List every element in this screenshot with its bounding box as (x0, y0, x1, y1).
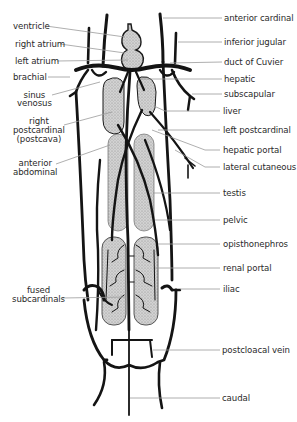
label-hepatic: hepatic (224, 75, 255, 84)
renal-portal-right-line (96, 160, 100, 330)
label-testis: testis (223, 189, 246, 198)
iliac-right (162, 286, 172, 290)
vessels (70, 14, 195, 415)
subscapular-right-end (188, 96, 190, 110)
label-lateral-cutaneous: lateral cutaneous (223, 163, 296, 172)
kidney-right (102, 237, 126, 325)
subscapular-right (172, 70, 194, 99)
label-caudal: caudal (222, 394, 250, 403)
inferior-jugular-left (88, 28, 89, 63)
label-duct-of-cuvier: duct of Cuvier (224, 58, 283, 67)
label-renal-portal: renal portal (223, 264, 272, 273)
caudal-join (104, 360, 158, 368)
label-left-atrium: left atrium (15, 57, 59, 66)
tail-right (159, 362, 162, 408)
left-body-wall-vessel (76, 92, 88, 300)
label-pelvic: pelvic (223, 216, 248, 225)
label-anterior-cardinal: anterior cardinal (224, 14, 293, 23)
label-inferior-jugular: inferior jugular (224, 38, 286, 47)
label-postcloacal-vein: postcloacal vein (222, 346, 290, 355)
label-right-postcardinal: right postcardinal (postcava) (13, 117, 65, 144)
label-left-postcardinal: left postcardinal (223, 126, 291, 135)
label-brachial: brachial (13, 73, 47, 82)
label-hepatic-portal: hepatic portal (223, 146, 282, 155)
tail-left (94, 362, 105, 405)
label-fused-subcardinals: fused subcardinals (12, 286, 65, 304)
label-opisthonephros: opisthonephros (223, 240, 288, 249)
label-sinus-venosus: sinus venosus (17, 91, 52, 107)
anterior-cardinal-right (160, 14, 163, 62)
renal-portal-outer-right (158, 290, 176, 362)
inferior-jugular-right (175, 33, 176, 63)
anterior-cardinal-left (103, 15, 107, 66)
liver-right-lobe (103, 78, 124, 134)
label-liver: liver (223, 107, 241, 116)
brachial-left (70, 70, 88, 96)
duct-loop-left (92, 70, 106, 76)
label-subscapular: subscapular (224, 90, 275, 99)
left-postcardinal (163, 62, 172, 280)
label-anterior-abdominal: anterior abdominal (13, 159, 57, 177)
label-ventricle: ventricle (13, 22, 50, 31)
label-iliac: iliac (223, 285, 240, 294)
label-right-atrium: right atrium (15, 40, 65, 49)
ventricle-shape (122, 24, 144, 70)
postcloacal-drop-right (150, 340, 152, 357)
